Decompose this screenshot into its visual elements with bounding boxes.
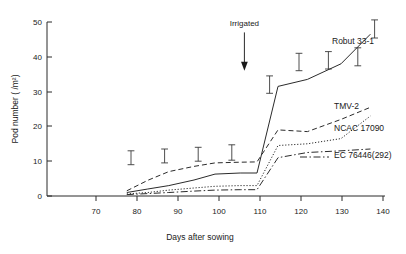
x-tick-label: 130: [335, 207, 349, 216]
chart-svg: 0 10 20 30 40 50 70 80 90 100 110 120 13…: [0, 0, 406, 254]
error-bar: [195, 147, 202, 161]
irrigated-label: Irrigated: [230, 19, 259, 28]
error-bar: [354, 48, 361, 66]
y-tick-label: 0: [38, 192, 43, 201]
error-bar: [228, 145, 235, 160]
chart-figure: 0 10 20 30 40 50 70 80 90 100 110 120 13…: [0, 0, 406, 254]
irrigated-arrow-head: [241, 62, 248, 71]
error-bar: [161, 149, 168, 163]
error-bar: [325, 52, 332, 69]
y-tick-label: 40: [33, 53, 42, 62]
error-bar: [128, 151, 135, 165]
y-tick-label: 50: [33, 18, 42, 27]
x-tick-label: 80: [133, 207, 142, 216]
irrigated-annotation: Irrigated: [230, 19, 259, 70]
x-tick-label: 100: [212, 207, 226, 216]
y-tick-label: 10: [33, 157, 42, 166]
y-tick-group: 0 10 20 30 40 50: [33, 18, 52, 201]
series-label-robut-33-1: Robut 33-1: [332, 36, 374, 46]
x-tick-label: 110: [254, 207, 267, 216]
series-label-group: Robut 33-1 TMV-2 NCAC 17090 EC 76446(292…: [300, 36, 392, 160]
error-bar: [296, 53, 303, 70]
x-tick-group: 70 80 90 100 110 120 130 140: [92, 196, 391, 216]
series-group: [127, 34, 371, 194]
y-tick-label: 30: [33, 88, 42, 97]
y-axis-title: Pod number ( /m²): [10, 74, 20, 143]
series-label-ncac-17090: NCAC 17090: [334, 123, 384, 133]
x-tick-label: 120: [294, 207, 308, 216]
series-label-ec-76446-292: EC 76446(292): [334, 150, 392, 160]
x-axis-title: Days after sowing: [166, 232, 234, 242]
series-label-tmv-2: TMV-2: [334, 101, 359, 111]
x-tick-label: 140: [376, 207, 390, 216]
y-tick-label: 20: [33, 122, 42, 131]
series-line-robut-33-1: [127, 34, 371, 192]
x-tick-label: 90: [174, 207, 183, 216]
x-tick-label: 70: [92, 207, 101, 216]
error-bar: [266, 76, 273, 93]
